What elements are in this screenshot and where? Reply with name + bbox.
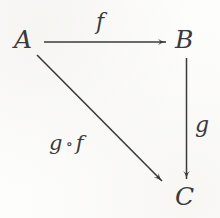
- morphism-label-g: g: [195, 114, 209, 136]
- ring-operator-icon: ∘: [62, 135, 75, 153]
- composite-left-operand: g: [49, 131, 62, 155]
- composite-right-operand: f: [76, 131, 84, 155]
- object-label-c: C: [175, 184, 194, 209]
- morphism-label-g-composed-f: g∘f: [49, 133, 84, 154]
- object-label-b: B: [175, 27, 193, 52]
- morphism-label-f: f: [96, 11, 104, 33]
- arrow-gof-a-to-c: [37, 55, 162, 181]
- commutative-diagram: A B C f g g∘f: [0, 0, 220, 218]
- object-label-a: A: [14, 27, 32, 52]
